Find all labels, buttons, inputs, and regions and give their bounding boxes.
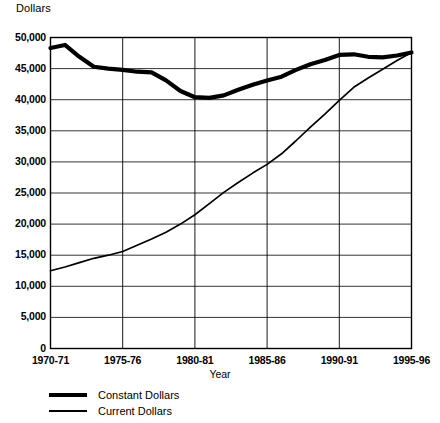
y-tick-label: 45,000 (0, 62, 46, 74)
x-axis-title: Year (0, 368, 440, 380)
series-lines (51, 45, 412, 271)
y-tick-label: 0 (0, 342, 46, 354)
y-tick-label: 35,000 (0, 124, 46, 136)
x-tick-label: 1980-81 (160, 354, 230, 366)
series-line (51, 45, 412, 98)
y-tick-label: 15,000 (0, 248, 46, 260)
x-tick-label: 1985-86 (232, 354, 302, 366)
legend-line-sample (49, 393, 87, 397)
legend-item: Current Dollars (48, 403, 348, 419)
y-tick-label: 10,000 (0, 279, 46, 291)
legend-line-sample (49, 410, 87, 412)
legend-swatch-icon (48, 410, 88, 412)
y-tick-label: 30,000 (0, 155, 46, 167)
x-tick-label: 1975-76 (88, 354, 158, 366)
x-tick-label: 1990-91 (304, 354, 374, 366)
line-chart-figure: Dollars 05,00010,00015,00020,00025,00030… (0, 0, 440, 423)
legend-item: Constant Dollars (48, 387, 348, 403)
x-tick-label: 1995-96 (377, 354, 440, 366)
legend-label: Constant Dollars (98, 389, 179, 401)
y-tick-label: 20,000 (0, 217, 46, 229)
x-tick-label: 1970-71 (16, 354, 86, 366)
legend-swatch-icon (48, 393, 88, 397)
legend-label: Current Dollars (98, 405, 172, 417)
y-tick-label: 5,000 (0, 310, 46, 322)
y-tick-label: 25,000 (0, 186, 46, 198)
y-tick-label: 50,000 (0, 31, 46, 43)
y-tick-label: 40,000 (0, 93, 46, 105)
chart-legend: Constant DollarsCurrent Dollars (48, 387, 348, 419)
